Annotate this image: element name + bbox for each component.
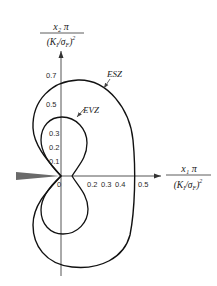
y-axis-numerator: x₂ π xyxy=(52,21,69,32)
y-tick-0.2: 0.2 xyxy=(49,143,59,152)
y-axis-denominator: (KI/σF)2 xyxy=(47,35,76,48)
evz-label: EVZ xyxy=(82,105,100,115)
x-tick-0.5: 0.5 xyxy=(138,180,148,189)
x-tick-0.4: 0.4 xyxy=(115,180,125,189)
crack-wedge xyxy=(16,172,60,180)
y-axis-label: x₂ π (KI/σF)2 xyxy=(40,21,84,48)
x-axis-numerator: x₁ π xyxy=(180,163,197,174)
x-tick-0.2: 0.2 xyxy=(87,180,97,189)
y-tick-0.3: 0.3 xyxy=(49,129,59,138)
x-tick-0.3: 0.3 xyxy=(101,180,111,189)
x-axis-label: x₁ π (KI/σF)2 xyxy=(166,163,211,191)
x-tick-0: 0 xyxy=(57,180,61,189)
esz-leader-arrow xyxy=(104,79,110,88)
esz-label: ESZ xyxy=(106,69,123,79)
y-tick-0.5: 0.5 xyxy=(46,100,56,109)
x-axis-denominator: (KI/σF)2 xyxy=(174,178,203,191)
evz-lower-lobe xyxy=(41,176,88,234)
plastic-zone-diagram: ESZ EVZ 0.7 0.5 0.3 0.2 0.1 0 0.2 0.3 0.… xyxy=(0,0,217,286)
y-tick-0.1: 0.1 xyxy=(49,157,59,166)
y-tick-0.7: 0.7 xyxy=(46,71,56,80)
evz-upper-lobe xyxy=(41,117,87,176)
